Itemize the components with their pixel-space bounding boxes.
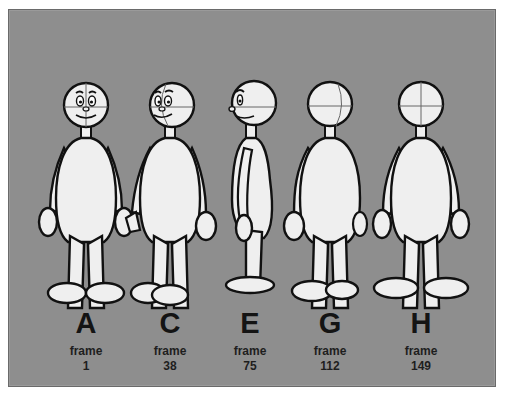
figure-g-three-quarter-back xyxy=(284,82,367,308)
pose-letter-c: C xyxy=(130,309,210,338)
frame-label: frame xyxy=(210,344,290,358)
pose-letter-e: E xyxy=(210,309,290,338)
frame-label: frame xyxy=(290,344,370,358)
figure-e-profile xyxy=(226,81,276,293)
pose-letter-a: A xyxy=(46,309,126,338)
frame-number: 149 xyxy=(381,359,461,373)
frame-label: frame xyxy=(130,344,210,358)
figure-h-back xyxy=(373,82,469,308)
frame-number: 112 xyxy=(290,359,370,373)
frame-number: 1 xyxy=(46,359,126,373)
frame-number: 75 xyxy=(210,359,290,373)
frame-label: frame xyxy=(381,344,461,358)
frame-label: frame xyxy=(46,344,126,358)
figure-a-front xyxy=(39,83,133,308)
frame-number: 38 xyxy=(130,359,210,373)
figure-c-three-quarter xyxy=(126,83,216,308)
pose-letter-g: G xyxy=(290,309,370,338)
pose-letter-h: H xyxy=(381,309,461,338)
